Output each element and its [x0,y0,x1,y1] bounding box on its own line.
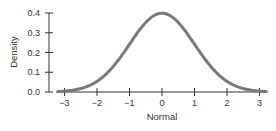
x-axis: −3−2−10123 [56,88,268,108]
density-curve [58,13,266,91]
x-axis-title: Normal [147,111,178,122]
y-tick-label: 0.1 [27,67,40,77]
y-axis-title: Density [8,36,19,68]
x-tick-label: 2 [224,98,229,108]
normal-density-chart: 0.00.10.20.30.4 −3−2−10123 Density Norma… [0,0,276,131]
x-tick-label: −2 [92,98,102,108]
x-tick-label: −1 [124,98,134,108]
x-tick-label: 1 [192,98,197,108]
x-tick-label: 0 [159,98,164,108]
y-axis: 0.00.10.20.30.4 [27,8,53,97]
y-tick-label: 0.4 [27,8,40,18]
x-tick-label: −3 [59,98,69,108]
normal-density-line [58,13,266,91]
y-tick-label: 0.0 [27,87,40,97]
y-tick-label: 0.3 [27,28,40,38]
x-tick-label: 3 [257,98,262,108]
y-tick-label: 0.2 [27,48,40,58]
